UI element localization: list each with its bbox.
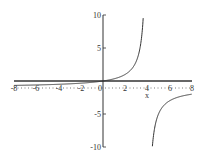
x-tick-label: 0 bbox=[98, 84, 102, 93]
curve-lower-branch bbox=[152, 94, 191, 146]
x-tick-label: -8 bbox=[11, 84, 18, 93]
plot-area: 10 5 -5 -10 -8 -6 -4 -2 0 2 4 6 8 x bbox=[0, 0, 203, 161]
x-tick-label: 6 bbox=[168, 84, 172, 93]
x-axis-label: x bbox=[145, 91, 149, 100]
y-tick-label: -10 bbox=[90, 143, 101, 152]
x-tick-label: -2 bbox=[78, 84, 85, 93]
y-tick-label: 5 bbox=[97, 44, 101, 53]
x-tick-label: -6 bbox=[33, 84, 40, 93]
y-tick-label: 10 bbox=[93, 11, 101, 20]
x-tick-label: 2 bbox=[123, 84, 127, 93]
y-tick-label: -5 bbox=[94, 110, 101, 119]
curve-upper-branch bbox=[14, 18, 143, 85]
x-tick-label: 8 bbox=[190, 84, 194, 93]
x-tick-label: -4 bbox=[56, 84, 63, 93]
